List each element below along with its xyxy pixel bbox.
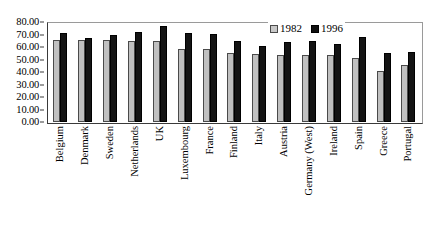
legend-swatch-icon xyxy=(270,25,278,33)
y-axis-tick-mark xyxy=(40,122,44,123)
y-axis-tick-mark xyxy=(40,47,44,48)
x-axis-category-label: Spain xyxy=(353,126,364,150)
x-axis-label-cell: Denmark xyxy=(73,124,98,234)
bar-1996 xyxy=(210,34,217,122)
y-axis-tick-label: 40.00 xyxy=(16,67,39,78)
bar-1982 xyxy=(377,71,384,122)
bar-group xyxy=(272,22,297,122)
bar-1982 xyxy=(327,55,334,122)
bars-container xyxy=(48,22,421,122)
bar-group xyxy=(396,22,421,122)
bar-1982 xyxy=(103,40,110,122)
x-axis-category-label: Sweden xyxy=(105,126,116,159)
bar-group xyxy=(321,22,346,122)
bar-group xyxy=(222,22,247,122)
bar-1996 xyxy=(359,37,366,122)
bar-1996 xyxy=(110,35,117,122)
x-axis-label-cell: UK xyxy=(147,124,172,234)
x-axis-label-cell: Finland xyxy=(222,124,247,234)
bar-1982 xyxy=(352,58,359,122)
x-axis-category-label: Italy xyxy=(254,126,265,145)
bar-group xyxy=(48,22,73,122)
bar-group xyxy=(98,22,123,122)
x-axis-label-cell: Sweden xyxy=(98,124,123,234)
chart-legend: 19821996 xyxy=(268,22,345,35)
bar-1996 xyxy=(384,53,391,122)
x-axis-label-cell: Greece xyxy=(371,124,396,234)
bar-1996 xyxy=(334,44,341,122)
bar-1982 xyxy=(128,41,135,122)
bar-1996 xyxy=(135,32,142,122)
x-axis-label-cell: Ireland xyxy=(321,124,346,234)
bar-group xyxy=(197,22,222,122)
bar-1996 xyxy=(85,38,92,122)
bar-1996 xyxy=(234,41,241,122)
bar-1996 xyxy=(160,26,167,122)
x-axis-category-label: Luxembourg xyxy=(179,126,190,180)
bar-1982 xyxy=(178,49,185,122)
legend-label: 1982 xyxy=(280,23,302,34)
bar-1982 xyxy=(78,40,85,122)
y-axis-tick-label: 0.00 xyxy=(21,117,39,128)
bar-1996 xyxy=(60,33,67,122)
bar-1996 xyxy=(259,46,266,122)
x-axis-label-cell: Spain xyxy=(346,124,371,234)
x-axis-category-label: UK xyxy=(155,126,166,141)
x-axis-label-cell: Germany (West) xyxy=(297,124,322,234)
bar-1982 xyxy=(53,40,60,123)
x-axis-label-cell: Netherlands xyxy=(123,124,148,234)
x-axis-category-label: Denmark xyxy=(80,126,91,165)
bar-1982 xyxy=(227,53,234,122)
bar-group xyxy=(73,22,98,122)
x-axis-labels: BelgiumDenmarkSwedenNetherlandsUKLuxembo… xyxy=(48,124,421,234)
y-axis-tick-mark xyxy=(40,34,44,35)
bar-1982 xyxy=(302,55,309,123)
bar-group xyxy=(346,22,371,122)
x-axis-category-label: Greece xyxy=(378,126,389,156)
x-axis-category-label: Portugal xyxy=(403,126,414,162)
bar-group xyxy=(147,22,172,122)
y-axis-tick-label: 10.00 xyxy=(16,104,39,115)
y-axis-tick-mark xyxy=(40,59,44,60)
y-axis: 80.0070.0060.0050.0040.0030.0020.0010.00… xyxy=(0,22,44,122)
y-axis-tick-mark xyxy=(40,97,44,98)
bar-group xyxy=(297,22,322,122)
x-axis-category-label: Finland xyxy=(229,126,240,158)
bar-group xyxy=(123,22,148,122)
x-axis-category-label: France xyxy=(204,126,215,155)
bar-1982 xyxy=(153,41,160,122)
bar-1982 xyxy=(252,54,259,122)
x-axis-label-cell: France xyxy=(197,124,222,234)
bar-group xyxy=(172,22,197,122)
x-axis-category-label: Germany (West) xyxy=(304,126,315,195)
bar-chart: 80.0070.0060.0050.0040.0030.0020.0010.00… xyxy=(0,0,430,236)
y-axis-tick-label: 60.00 xyxy=(16,42,39,53)
x-axis-category-label: Belgium xyxy=(55,126,66,162)
y-axis-tick-label: 20.00 xyxy=(16,92,39,103)
bar-1982 xyxy=(277,55,284,123)
x-axis-label-cell: Austria xyxy=(272,124,297,234)
y-axis-tick-label: 70.00 xyxy=(16,29,39,40)
legend-swatch-icon xyxy=(311,25,319,33)
x-axis-label-cell: Luxembourg xyxy=(172,124,197,234)
y-axis-tick-label: 80.00 xyxy=(16,17,39,28)
x-axis-category-label: Ireland xyxy=(329,126,340,156)
bar-1996 xyxy=(408,52,415,122)
y-axis-tick-mark xyxy=(40,109,44,110)
x-axis-category-label: Austria xyxy=(279,126,290,157)
x-axis-category-label: Netherlands xyxy=(130,126,141,177)
legend-entry: 1982 xyxy=(270,23,302,34)
bar-group xyxy=(371,22,396,122)
x-axis-label-cell: Portugal xyxy=(396,124,421,234)
bar-1996 xyxy=(185,33,192,122)
y-axis-tick-mark xyxy=(40,22,44,23)
y-axis-tick-mark xyxy=(40,72,44,73)
bar-1982 xyxy=(401,65,408,123)
legend-label: 1996 xyxy=(321,23,343,34)
x-axis-label-cell: Italy xyxy=(247,124,272,234)
y-axis-tick-label: 50.00 xyxy=(16,54,39,65)
x-axis-label-cell: Belgium xyxy=(48,124,73,234)
y-axis-tick-label: 30.00 xyxy=(16,79,39,90)
bar-1982 xyxy=(203,49,210,122)
bar-group xyxy=(247,22,272,122)
